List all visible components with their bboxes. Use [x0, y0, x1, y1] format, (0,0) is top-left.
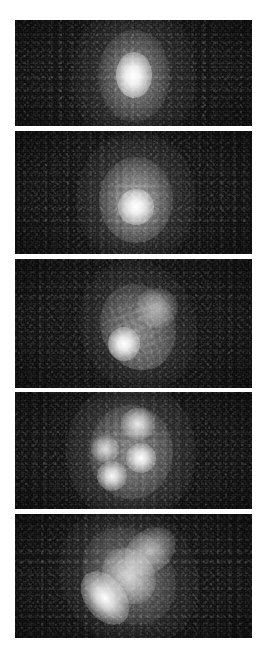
image-panel-4: [15, 392, 252, 509]
figure-panel-strip: [0, 0, 263, 655]
image-panel-5: [15, 514, 252, 638]
panel-1-fine-grain: [15, 20, 252, 126]
image-panel-1: [15, 20, 252, 126]
image-panel-2: [15, 131, 252, 254]
panel-4-fine-grain: [15, 392, 252, 509]
image-panel-3: [15, 259, 252, 388]
panel-5-fine-grain: [15, 514, 252, 638]
panel-2-fine-grain: [15, 131, 252, 254]
panel-3-fine-grain: [15, 259, 252, 388]
